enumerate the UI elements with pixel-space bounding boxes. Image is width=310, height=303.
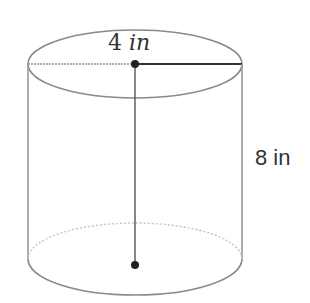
bottom-center-point [131, 261, 139, 269]
radius-unit: in [129, 30, 150, 55]
height-label: 8 in [255, 145, 290, 171]
top-center-point [131, 60, 139, 68]
radius-label: 4 in [108, 30, 150, 55]
cylinder-diagram: 4 in 8 in [0, 0, 310, 303]
radius-value: 4 [108, 30, 122, 55]
